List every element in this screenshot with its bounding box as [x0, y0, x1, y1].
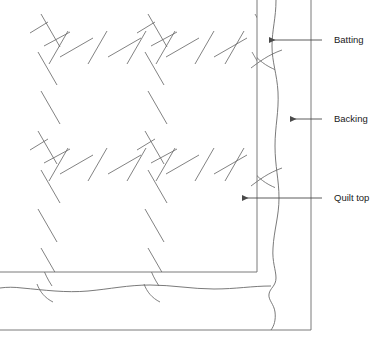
quilt-top-edge: [0, 0, 257, 272]
quilting-dashes-sw-ne: [49, 31, 247, 181]
callout-quilt-top: Quilt top: [242, 192, 369, 203]
quilting-cross-ticks: [30, 22, 177, 163]
callout-batting: Batting: [269, 34, 364, 45]
quilting-stitch-field: [30, 14, 274, 281]
quilt-diagram: Batting Backing Quilt top: [0, 0, 383, 345]
quilting-stitch-border-overrun: [41, 52, 276, 286]
batting-label: Batting: [334, 34, 364, 45]
diagram-canvas: Batting Backing Quilt top: [0, 0, 383, 345]
callout-backing: Backing: [290, 113, 368, 124]
quilting-dashes-nw-se: [38, 14, 274, 281]
backing-label: Backing: [334, 113, 368, 124]
quilt-top-label: Quilt top: [334, 192, 369, 203]
quilting-border-curls: [37, 50, 282, 302]
batting-edge: [0, 0, 279, 330]
